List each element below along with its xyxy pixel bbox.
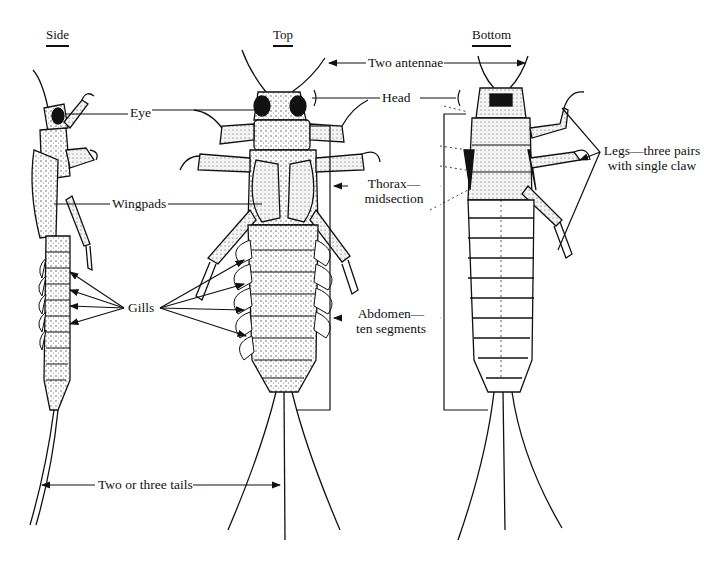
label-two-antennae: Two antennae [368, 55, 443, 70]
view-title-bottom: Bottom [472, 27, 511, 47]
view-title-side: Side [46, 27, 69, 47]
label-abdomen: Abdomen— ten segments [342, 306, 440, 336]
top-view-insect [180, 50, 380, 540]
label-head: Head [382, 90, 410, 105]
label-thorax: Thorax— midsection [348, 176, 440, 206]
label-legs-line1: Legs—three pairs [602, 143, 702, 158]
view-title-top: Top [273, 27, 293, 47]
bottom-view-insect [458, 56, 590, 540]
label-thorax-line2: midsection [348, 191, 440, 206]
label-two-or-three-tails: Two or three tails [98, 477, 193, 492]
label-abdomen-line1: Abdomen— [342, 306, 440, 321]
label-thorax-line1: Thorax— [348, 176, 440, 191]
label-legs: Legs—three pairs with single claw [602, 143, 702, 173]
label-legs-line2: with single claw [602, 158, 702, 173]
label-gills: Gills [128, 300, 154, 315]
label-eye: Eye [130, 105, 151, 120]
side-view-insect [30, 70, 97, 525]
label-abdomen-line2: ten segments [342, 321, 440, 336]
label-wingpads: Wingpads [112, 196, 166, 211]
